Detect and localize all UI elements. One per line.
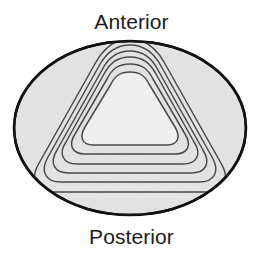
cross-section-figure: Anterior [0, 0, 263, 258]
cross-section-diagram [0, 0, 263, 258]
posterior-label: Posterior [0, 226, 263, 247]
